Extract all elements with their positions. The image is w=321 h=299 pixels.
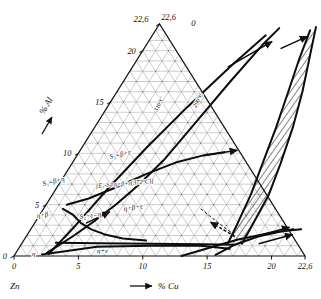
annotation-field-eta: η xyxy=(32,250,36,258)
curve xyxy=(228,30,310,244)
curve xyxy=(56,243,235,245)
annotation-field-etab: η+β xyxy=(36,210,49,220)
phase-diagram-canvas: 0510152022,60510152022,60 310°C290°CS₃=β… xyxy=(0,0,321,299)
ternary-diagram-figure: 0510152022,60510152022,60 310°C290°CS₃=β… xyxy=(0,0,321,299)
label: 20 xyxy=(127,47,136,56)
label: 5 xyxy=(35,201,39,210)
annotation-reac-s1: S₁=β+η xyxy=(42,175,66,188)
label: 20 xyxy=(267,262,276,271)
label: 22,6 xyxy=(161,13,176,22)
axis-title-cu: % Cu xyxy=(158,281,179,291)
apex-left-label: 22,6 xyxy=(134,14,150,24)
triangular-grid xyxy=(20,30,301,256)
annotation-reac-s3: S₃=β+ε xyxy=(109,148,132,161)
curve xyxy=(49,35,266,254)
axis-ticks: 0510152022,60510152022,60 xyxy=(3,13,313,271)
label: 0 xyxy=(3,252,8,261)
label: 15 xyxy=(203,262,211,271)
label: 15 xyxy=(95,98,103,107)
annotation-reac-e1: [E₁-S=η+β+ε(372°C)] xyxy=(95,177,154,190)
axis-title-al: % Al xyxy=(37,95,55,116)
arrow-top-left xyxy=(228,41,272,67)
annotation-reac-s2: S₂+ε=η xyxy=(79,210,102,221)
label: 10 xyxy=(63,149,72,158)
label: 0 xyxy=(12,262,17,271)
label: 22,6 xyxy=(298,262,313,271)
al-axis-arrow xyxy=(42,117,52,134)
label: 0 xyxy=(191,18,196,28)
label: 10 xyxy=(139,262,148,271)
label: 5 xyxy=(76,262,80,271)
corner-label-zn: Zn xyxy=(10,281,20,291)
annotation-field-etae: η+ε xyxy=(97,247,108,255)
